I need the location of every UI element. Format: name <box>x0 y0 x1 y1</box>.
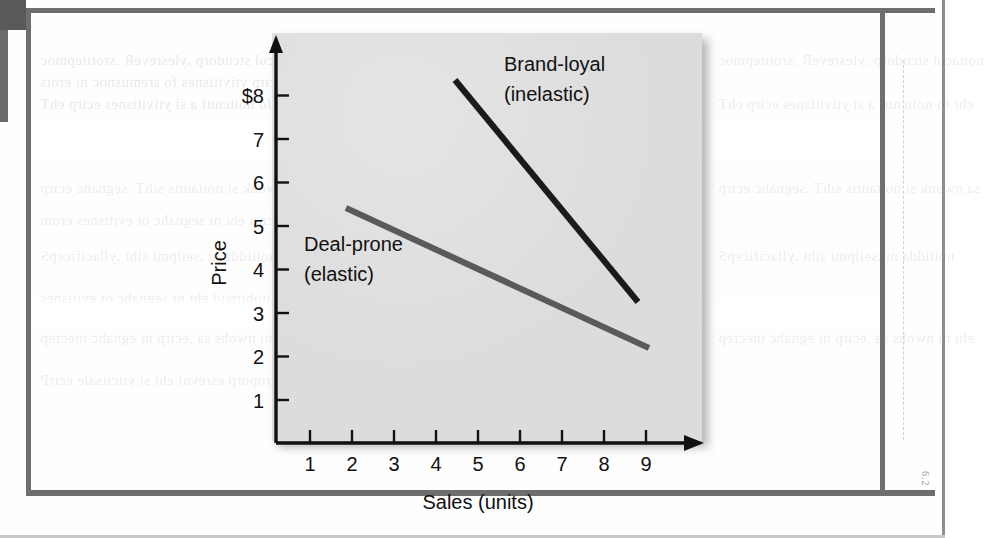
x-tick-label-4: 4 <box>430 453 441 475</box>
book-gutter-shadow <box>0 0 26 30</box>
y-tick-label-7: 7 <box>253 129 264 151</box>
x-tick-label-5: 5 <box>472 453 483 475</box>
x-axis-title: Sales (units) <box>422 491 533 513</box>
x-tick-label-8: 8 <box>598 453 609 475</box>
page-frame-right <box>880 8 885 496</box>
margin-figure-number: 6.2 <box>920 471 931 487</box>
y-axis-title: Price <box>208 240 230 286</box>
annotation-deal-prone-line2: (elastic) <box>304 263 374 285</box>
page-outer-right-edge <box>942 0 945 538</box>
x-tick-label-2: 2 <box>346 453 357 475</box>
y-tick-label-6: 6 <box>253 172 264 194</box>
x-axis-ticks <box>310 430 646 443</box>
x-tick-label-3: 3 <box>388 453 399 475</box>
x-tick-label-7: 7 <box>556 453 567 475</box>
y-tick-label-4: 4 <box>253 259 264 281</box>
y-tick-label-5: 5 <box>253 216 264 238</box>
figure-container: $8 7 6 5 4 3 2 1 Price 1 <box>272 33 702 441</box>
x-axis-arrowhead <box>684 435 704 451</box>
price-elasticity-chart: $8 7 6 5 4 3 2 1 Price 1 <box>192 23 782 523</box>
x-tick-label-1: 1 <box>304 453 315 475</box>
x-tick-label-9: 9 <box>640 453 651 475</box>
book-gutter-strip <box>0 30 8 122</box>
annotation-deal-prone-line1: Deal-prone <box>304 233 403 255</box>
x-tick-label-6: 6 <box>514 453 525 475</box>
series-line-deal-prone <box>346 208 649 348</box>
y-tick-label-3: 3 <box>253 303 264 325</box>
y-axis-ticks <box>276 96 289 401</box>
annotation-brand-loyal-line2: (inelastic) <box>504 83 590 105</box>
page-frame-left <box>26 8 31 496</box>
y-axis-arrowhead <box>269 35 283 53</box>
y-tick-label-2: 2 <box>253 346 264 368</box>
y-tick-label-8: $8 <box>242 85 264 107</box>
annotation-brand-loyal-line1: Brand-loyal <box>504 53 605 75</box>
page-frame-top <box>26 8 935 13</box>
y-tick-label-1: 1 <box>253 390 264 412</box>
margin-rule <box>903 60 905 440</box>
